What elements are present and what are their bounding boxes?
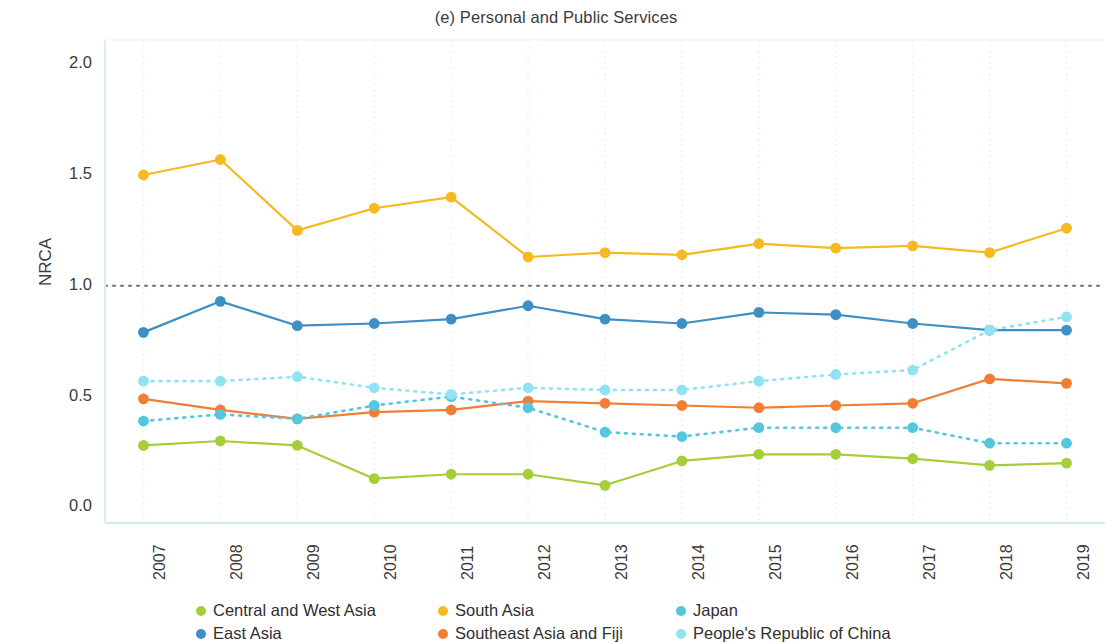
- series-layer: [138, 154, 1072, 491]
- x-tick-label: 2018: [998, 544, 1016, 580]
- legend-label: Southeast Asia and Fiji: [455, 624, 623, 643]
- legend-label: People's Republic of China: [693, 624, 891, 643]
- data-point: [677, 385, 688, 396]
- data-point: [907, 398, 918, 409]
- legend-marker-icon: [676, 629, 686, 639]
- data-point: [984, 438, 995, 449]
- data-point: [138, 327, 149, 338]
- data-point: [215, 296, 226, 307]
- data-point: [600, 427, 611, 438]
- data-point: [215, 436, 226, 447]
- data-point: [446, 405, 457, 416]
- legend-item[interactable]: People's Republic of China: [676, 624, 1112, 643]
- data-point: [369, 318, 380, 329]
- y-tick-label: 2.0: [32, 53, 92, 72]
- x-tick-label: 2017: [921, 544, 939, 580]
- x-tick-label: 2014: [690, 544, 708, 580]
- series-line-2: [143, 159, 1066, 257]
- data-point: [600, 247, 611, 258]
- data-point: [677, 456, 688, 467]
- data-point: [753, 402, 764, 413]
- x-tick-label: 2009: [305, 544, 323, 580]
- data-point: [523, 469, 534, 480]
- data-point: [138, 416, 149, 427]
- gridlines: [143, 40, 1066, 523]
- data-point: [523, 252, 534, 263]
- x-tick-label: 2013: [613, 544, 631, 580]
- data-point: [907, 365, 918, 376]
- data-point: [292, 320, 303, 331]
- data-point: [369, 203, 380, 214]
- y-tick-label: 1.0: [32, 275, 92, 294]
- data-point: [677, 400, 688, 411]
- data-point: [830, 400, 841, 411]
- x-tick-label: 2007: [151, 544, 169, 580]
- data-point: [677, 249, 688, 260]
- legend-marker-icon: [438, 629, 448, 639]
- data-point: [907, 453, 918, 464]
- data-point: [600, 314, 611, 325]
- legend-item[interactable]: Central and West Asia: [196, 601, 438, 620]
- legend-marker-icon: [676, 606, 686, 616]
- data-point: [292, 225, 303, 236]
- series-line-5: [143, 317, 1066, 395]
- data-point: [215, 376, 226, 387]
- data-point: [446, 314, 457, 325]
- data-point: [984, 460, 995, 471]
- legend-marker-icon: [196, 629, 206, 639]
- legend-label: Japan: [693, 601, 738, 620]
- data-point: [446, 469, 457, 480]
- data-point: [369, 400, 380, 411]
- data-point: [984, 247, 995, 258]
- data-point: [523, 402, 534, 413]
- legend-label: East Asia: [213, 624, 282, 643]
- data-point: [677, 431, 688, 442]
- data-point: [292, 413, 303, 424]
- data-point: [446, 389, 457, 400]
- x-tick-label: 2011: [459, 546, 477, 580]
- x-tick-label: 2010: [382, 544, 400, 580]
- data-point: [138, 440, 149, 451]
- data-point: [753, 307, 764, 318]
- data-point: [600, 480, 611, 491]
- data-point: [1061, 325, 1072, 336]
- data-point: [446, 192, 457, 203]
- legend-marker-icon: [196, 606, 206, 616]
- data-point: [138, 376, 149, 387]
- data-point: [830, 422, 841, 433]
- data-point: [753, 422, 764, 433]
- legend-marker-icon: [438, 606, 448, 616]
- data-point: [753, 376, 764, 387]
- x-tick-label: 2008: [228, 544, 246, 580]
- legend-item[interactable]: Japan: [676, 601, 1112, 620]
- data-point: [984, 325, 995, 336]
- data-point: [138, 170, 149, 181]
- chart-container: (e) Personal and Public Services NRCA 0.…: [0, 0, 1112, 644]
- data-point: [523, 382, 534, 393]
- data-point: [753, 238, 764, 249]
- data-point: [1061, 438, 1072, 449]
- data-point: [1061, 223, 1072, 234]
- data-point: [369, 382, 380, 393]
- data-point: [369, 473, 380, 484]
- x-tick-label: 2015: [767, 544, 785, 580]
- data-point: [138, 393, 149, 404]
- data-point: [907, 318, 918, 329]
- data-point: [830, 369, 841, 380]
- legend-item[interactable]: Southeast Asia and Fiji: [438, 624, 676, 643]
- legend-item[interactable]: East Asia: [196, 624, 438, 643]
- data-point: [830, 309, 841, 320]
- data-point: [1061, 458, 1072, 469]
- x-tick-label: 2016: [844, 544, 862, 580]
- data-point: [215, 409, 226, 420]
- data-point: [907, 241, 918, 252]
- data-point: [984, 374, 995, 385]
- data-point: [907, 422, 918, 433]
- y-tick-label: 0.5: [32, 386, 92, 405]
- data-point: [830, 243, 841, 254]
- data-point: [292, 440, 303, 451]
- data-point: [523, 300, 534, 311]
- legend-item[interactable]: South Asia: [438, 601, 676, 620]
- y-tick-label: 0.0: [32, 496, 92, 515]
- x-tick-label: 2012: [536, 544, 554, 580]
